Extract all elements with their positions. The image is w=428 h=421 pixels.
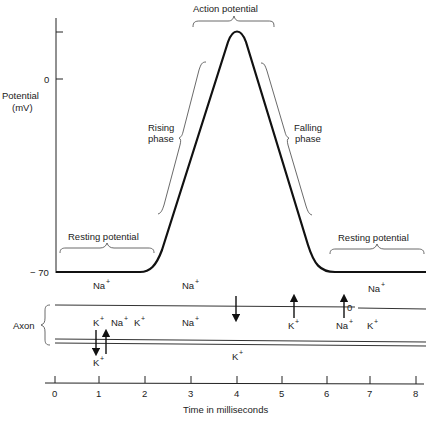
ion-k-inside-2: K+: [134, 315, 145, 328]
svg-text:+: +: [141, 315, 145, 322]
svg-text:Na: Na: [336, 320, 349, 331]
resting-right-brace: [330, 244, 424, 254]
x-tick-label-2: 2: [142, 388, 147, 399]
ion-k-inside-3: K+: [288, 318, 299, 331]
svg-text:Na: Na: [93, 280, 106, 291]
x-axis-title: Time in milliseconds: [183, 404, 268, 415]
svg-text:+: +: [374, 318, 378, 325]
x-tick-label-0: 0: [52, 388, 57, 399]
svg-text:K: K: [367, 320, 374, 331]
svg-text:+: +: [239, 349, 243, 356]
axon-brace: [41, 305, 50, 345]
svg-text:Na: Na: [368, 283, 381, 294]
x-axis-line: [45, 383, 424, 384]
x-tick-label-7: 7: [367, 388, 372, 399]
svg-text:+: +: [195, 278, 199, 285]
ion-k-inside-4: K+: [367, 318, 378, 331]
ion-na-inside-3: Na+: [336, 318, 353, 331]
action-potential-label: Action potential: [193, 3, 258, 14]
svg-text:+: +: [381, 281, 385, 288]
y-tick-label-minus70: − 70: [30, 267, 49, 278]
x-tick-label-1: 1: [96, 388, 101, 399]
action-potential-brace: [193, 16, 274, 27]
ion-k-outside-2: K+: [232, 349, 243, 362]
svg-text:K: K: [93, 357, 100, 368]
action-potential-diagram: 0 − 70 Potential (mV) Action potential R…: [0, 0, 428, 421]
rising-phase-label-1: Rising: [148, 122, 174, 133]
ion-k-inside-1: K+: [93, 315, 104, 328]
x-tick-label-6: 6: [324, 388, 329, 399]
y-tick-label-zero: 0: [44, 74, 49, 85]
svg-text:+: +: [295, 318, 299, 325]
svg-text:+: +: [100, 355, 104, 362]
svg-text:K: K: [134, 317, 141, 328]
ion-k-outside-1: K+: [93, 355, 104, 368]
svg-text:Na: Na: [111, 317, 124, 328]
y-axis-label: Potential: [2, 90, 39, 101]
x-tick-label-5: 5: [279, 388, 284, 399]
svg-text:K: K: [232, 351, 239, 362]
svg-text:+: +: [349, 318, 353, 325]
ion-na-inside-1: Na+: [111, 315, 128, 328]
svg-text:K: K: [93, 317, 100, 328]
svg-text:Na: Na: [182, 317, 195, 328]
axon-membrane-bottom-1: [55, 339, 426, 342]
rising-phase-label-2: phase: [148, 133, 174, 144]
svg-text:Na: Na: [182, 280, 195, 291]
x-tick-label-3: 3: [188, 388, 193, 399]
axon-membrane-top-right: [358, 308, 426, 309]
axon-label: Axon: [13, 320, 35, 331]
falling-phase-label-1: Falling: [294, 122, 322, 133]
resting-left-brace: [60, 243, 154, 253]
ion-na-3: Na+: [368, 281, 385, 294]
ion-na-inside-2: Na+: [182, 315, 199, 328]
svg-text:+: +: [100, 315, 104, 322]
x-tick-label-8: 8: [413, 388, 418, 399]
axon-zero-marker: 0: [347, 302, 352, 313]
resting-left-label: Resting potential: [68, 231, 139, 242]
svg-text:+: +: [106, 278, 110, 285]
svg-text:K: K: [288, 320, 295, 331]
y-axis-unit: (mV): [12, 102, 33, 113]
x-tick-label-4: 4: [234, 388, 239, 399]
axon-membrane-bottom-2: [55, 343, 426, 346]
resting-right-label: Resting potential: [338, 232, 409, 243]
axon-membrane-top: [55, 305, 355, 307]
ion-na-1: Na+: [93, 278, 110, 291]
svg-text:+: +: [124, 315, 128, 322]
svg-text:+: +: [195, 315, 199, 322]
ion-na-2: Na+: [182, 278, 199, 291]
falling-phase-label-2: phase: [295, 133, 321, 144]
